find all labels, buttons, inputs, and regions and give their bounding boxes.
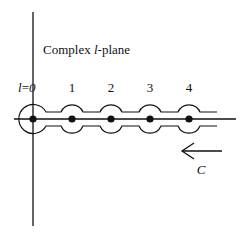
pole-0 xyxy=(29,115,36,122)
pole-1 xyxy=(68,115,75,122)
pole-label-2: 2 xyxy=(108,80,115,95)
pole-label-1: 1 xyxy=(69,80,76,95)
pole-label-4: 4 xyxy=(186,80,193,95)
pole-3 xyxy=(146,115,153,122)
contour-label: C xyxy=(197,162,206,177)
plane-title: Complex l-plane xyxy=(43,42,130,57)
pole-2 xyxy=(107,115,114,122)
diagram-canvas: Complex l-plane l=0 1 2 3 4 C xyxy=(0,0,250,239)
origin-label: l=0 xyxy=(18,80,36,95)
pole-label-3: 3 xyxy=(147,80,154,95)
pole-4 xyxy=(185,115,192,122)
complex-l-plane-diagram: Complex l-plane l=0 1 2 3 4 C xyxy=(0,0,250,239)
